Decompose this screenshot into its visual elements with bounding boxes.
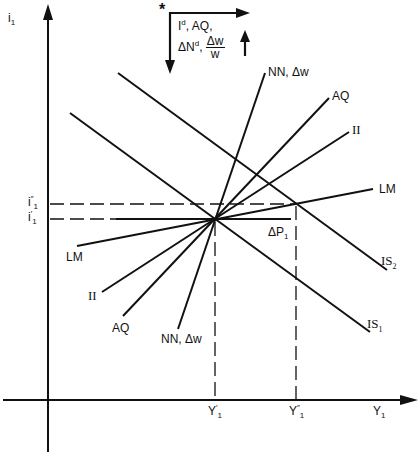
inset-down-arrow-icon [165,60,175,74]
is1-label: IS1 [367,318,383,330]
inset-dn-text: ΔN [178,40,195,54]
ii-curve [102,132,349,292]
ii-label-lower: II [88,290,97,302]
y-axis-label-sub: 1 [11,18,15,27]
is2-label: IS2 [381,255,397,267]
inset-fraction-denominator: w [206,48,225,60]
inset-line-2: ΔNd, Δw w [178,35,225,60]
inset-star: * [159,4,165,16]
inset-right-arrow-icon [236,8,250,18]
is2-label-text: IS [381,253,393,268]
inset-comma: , [199,40,202,54]
tick-Y1-prime: Y′1 [208,405,222,417]
aq-curve [123,98,329,316]
x-axis-label: Y1 [373,405,385,417]
lm-curve [77,189,373,246]
inset-line-1: Id, AQ, [178,20,212,32]
guide-lines [50,204,296,400]
y-axis-label: i1 [8,12,15,24]
tick-text: Y [289,404,297,418]
delta-p-sub: 1 [284,232,288,241]
lm-label-upper: LM [379,183,396,195]
is2-label-sub: 2 [393,262,397,271]
tick-sub: 1 [300,411,304,420]
is1-curve [70,113,370,332]
tick-i1-double-prime: i″1 [28,196,38,208]
is1-label-sub: 1 [379,325,383,334]
x-axis-label-sub: 1 [381,411,385,420]
tick-Y1-double-prime: Y″1 [289,405,304,417]
x-axis-arrow-icon [400,395,418,405]
y-axis-arrow-icon [43,4,53,20]
nn-label-upper: NN, Δw [268,66,309,78]
aq-label-lower: AQ [112,322,129,334]
tick-text: Y [208,404,216,418]
inset-up-arrow-icon [240,30,250,42]
axes [3,4,418,452]
delta-p-text: ΔP [268,225,284,239]
tick-i1-prime: i′1 [28,211,37,223]
ii-label-upper: II [352,124,361,136]
delta-p-label: ΔP1 [268,226,288,238]
nn-label-lower: NN, Δw [161,333,202,345]
tick-sub: 1 [32,217,36,226]
x-axis-label-text: Y [373,404,381,418]
aq-label-upper: AQ [332,90,349,102]
tick-sub: 1 [218,411,222,420]
inset-aq-text: , AQ, [186,19,213,33]
is1-label-text: IS [367,316,379,331]
inset-fraction: Δw w [206,35,225,60]
lm-label-lower: LM [66,251,83,263]
diagram-canvas [0,0,420,458]
